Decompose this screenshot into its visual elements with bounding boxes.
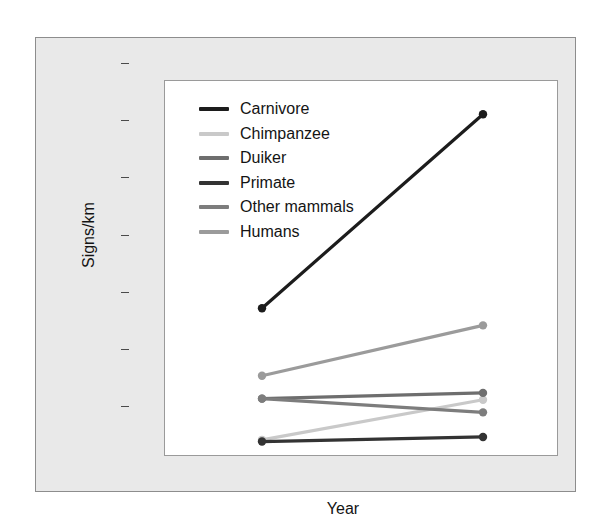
legend-item[interactable]: Other mammals: [199, 195, 354, 220]
series-duiker: [258, 389, 487, 403]
data-point-marker: [258, 394, 266, 402]
series-primate: [258, 433, 487, 446]
chart-legend: CarnivoreChimpanzeeDuikerPrimateOther ma…: [199, 97, 354, 244]
series-chimpanzee: [258, 396, 487, 444]
series-line: [262, 437, 483, 442]
y-tick-mark: [121, 349, 129, 350]
legend-item[interactable]: Humans: [199, 220, 354, 245]
legend-item-label: Other mammals: [240, 198, 354, 216]
data-point-marker: [258, 436, 266, 444]
series-line: [262, 399, 483, 413]
y-tick-mark: [121, 63, 129, 64]
series-line: [262, 325, 483, 375]
data-point-marker: [258, 394, 266, 402]
legend-item[interactable]: Primate: [199, 171, 354, 196]
legend-line-swatch: [199, 132, 229, 136]
data-point-marker: [479, 389, 487, 397]
legend-item-label: Humans: [240, 223, 300, 241]
data-point-marker: [258, 304, 266, 312]
legend-line-swatch: [199, 107, 229, 111]
data-point-marker: [479, 110, 487, 118]
data-point-marker: [479, 433, 487, 441]
legend-item-label: Chimpanzee: [240, 125, 330, 143]
chart-figure: 0.000.010.020.030.040.050.062010/112014 …: [0, 0, 614, 532]
y-tick-mark: [121, 406, 129, 407]
legend-item-label: Primate: [240, 174, 295, 192]
data-point-marker: [479, 321, 487, 329]
legend-line-swatch: [199, 205, 229, 209]
legend-item[interactable]: Carnivore: [199, 97, 354, 122]
plot-panel: CarnivoreChimpanzeeDuikerPrimateOther ma…: [164, 80, 558, 456]
y-tick-mark: [121, 235, 129, 236]
y-axis-title: Signs/km: [80, 202, 98, 268]
y-tick-mark: [121, 120, 129, 121]
data-point-marker: [258, 437, 266, 445]
legend-item-label: Duiker: [240, 149, 286, 167]
legend-line-swatch: [199, 156, 229, 160]
y-tick-mark: [121, 292, 129, 293]
data-point-marker: [479, 408, 487, 416]
series-line: [262, 400, 483, 440]
data-point-marker: [479, 396, 487, 404]
legend-line-swatch: [199, 230, 229, 234]
series-line: [262, 393, 483, 399]
series-other-mammals: [258, 394, 487, 416]
series-humans: [258, 321, 487, 380]
data-point-marker: [258, 372, 266, 380]
legend-item[interactable]: Chimpanzee: [199, 122, 354, 147]
y-tick-mark: [121, 177, 129, 178]
legend-item[interactable]: Duiker: [199, 146, 354, 171]
legend-item-label: Carnivore: [240, 100, 309, 118]
x-axis-title: Year: [36, 500, 614, 518]
legend-line-swatch: [199, 181, 229, 185]
figure-canvas: 0.000.010.020.030.040.050.062010/112014 …: [35, 37, 576, 492]
